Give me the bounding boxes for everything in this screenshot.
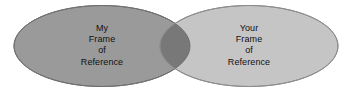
venn-diagram: My Frame of Reference Your Frame of Refe…	[0, 0, 354, 94]
venn-canvas	[0, 0, 354, 94]
